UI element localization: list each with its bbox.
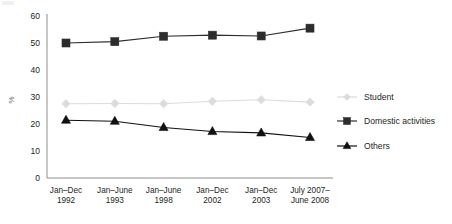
legend-item-student[interactable]: Student bbox=[337, 92, 394, 102]
data-point-marker bbox=[110, 116, 119, 124]
data-point-marker bbox=[160, 32, 168, 40]
legend-label: Others bbox=[364, 141, 390, 151]
x-tick-label: Jan–Dec bbox=[245, 186, 277, 195]
page-artifact bbox=[2, 1, 14, 5]
x-tick-label: Jan–June bbox=[146, 186, 182, 195]
legend-item-domestic-activities[interactable]: Domestic activities bbox=[337, 116, 435, 126]
series-domestic-activities bbox=[62, 24, 314, 47]
x-axis: Jan–Dec1992Jan–June1993Jan–June1998Jan–D… bbox=[47, 178, 333, 205]
x-tick-label: July 2007– bbox=[290, 186, 330, 195]
data-point-marker bbox=[62, 115, 71, 123]
series-others bbox=[62, 115, 315, 140]
x-tick-label: June 2008 bbox=[291, 196, 330, 205]
data-point-marker bbox=[62, 100, 70, 108]
chart-canvas: 6050403020100% Jan–Dec1992Jan–June1993Ja… bbox=[0, 0, 452, 224]
y-tick-label: 50 bbox=[31, 38, 41, 48]
x-tick-label: 1998 bbox=[154, 196, 173, 205]
data-point-marker bbox=[208, 97, 216, 105]
data-point-marker bbox=[306, 133, 315, 141]
x-tick-label: 1992 bbox=[57, 196, 76, 205]
diamond-marker-icon bbox=[343, 93, 350, 100]
series-student bbox=[62, 96, 314, 108]
y-tick-label: 20 bbox=[31, 119, 41, 129]
y-tick-label: 30 bbox=[31, 92, 41, 102]
series-line bbox=[66, 100, 310, 104]
legend-label: Student bbox=[364, 92, 394, 102]
data-point-marker bbox=[208, 31, 216, 39]
data-point-marker bbox=[111, 99, 119, 107]
x-tick-label: 2003 bbox=[252, 196, 271, 205]
data-point-marker bbox=[208, 127, 217, 135]
data-point-marker bbox=[306, 24, 314, 32]
data-point-marker bbox=[257, 128, 266, 136]
triangle-marker-icon bbox=[343, 142, 351, 149]
data-point-marker bbox=[62, 39, 70, 47]
line-chart: 6050403020100% Jan–Dec1992Jan–June1993Ja… bbox=[0, 0, 452, 224]
x-tick-label: 2002 bbox=[203, 196, 222, 205]
series-layer bbox=[62, 24, 315, 140]
legend-label: Domestic activities bbox=[364, 116, 435, 126]
data-point-marker bbox=[159, 100, 167, 108]
data-point-marker bbox=[111, 38, 119, 46]
data-point-marker bbox=[306, 98, 314, 106]
y-tick-label: 40 bbox=[31, 65, 41, 75]
x-tick-label: 1993 bbox=[106, 196, 125, 205]
x-tick-label: Jan–June bbox=[97, 186, 133, 195]
y-tick-label: 10 bbox=[31, 146, 41, 156]
chart-legend: StudentDomestic activitiesOthers bbox=[337, 92, 435, 151]
y-axis-title: % bbox=[7, 96, 16, 103]
y-axis: 6050403020100% bbox=[7, 11, 47, 183]
data-point-marker bbox=[257, 32, 265, 40]
legend-item-others[interactable]: Others bbox=[337, 141, 390, 151]
y-tick-label: 0 bbox=[35, 173, 40, 183]
data-point-marker bbox=[257, 96, 265, 104]
series-line bbox=[66, 28, 310, 43]
x-tick-label: Jan–Dec bbox=[196, 186, 228, 195]
data-point-marker bbox=[159, 123, 168, 131]
x-tick-label: Jan–Dec bbox=[50, 186, 82, 195]
series-line bbox=[66, 120, 310, 137]
y-tick-label: 60 bbox=[31, 11, 41, 21]
square-marker-icon bbox=[344, 118, 351, 125]
